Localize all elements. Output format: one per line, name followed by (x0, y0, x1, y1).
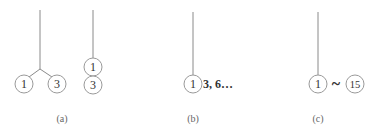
caption-a: (a) (56, 113, 67, 125)
node-label: 1 (190, 77, 196, 91)
caption-b: (b) (187, 113, 199, 125)
panel-a-stacked: 1 3 (84, 10, 102, 94)
node-label: 1 (90, 60, 96, 74)
node-label: 3 (54, 77, 60, 91)
branch-left-line (29, 69, 40, 77)
panel-a-split-tree: 1 3 (15, 10, 66, 93)
node-label: 1 (21, 77, 27, 91)
range-tilde: ~ (332, 75, 341, 92)
node-label: 3 (90, 78, 96, 92)
panel-b: 1 3, 6… (184, 12, 233, 93)
branch-right-line (40, 69, 52, 77)
caption-c: (c) (312, 113, 323, 125)
node-label: 15 (350, 79, 361, 90)
panel-c: 1 ~ 15 (309, 12, 364, 93)
node-label: 1 (315, 77, 321, 91)
sequence-text: 3, 6… (203, 77, 233, 91)
diagram-canvas: 1 3 1 3 (a) 1 3, 6… (b) 1 ~ 15 (c) (0, 0, 376, 130)
